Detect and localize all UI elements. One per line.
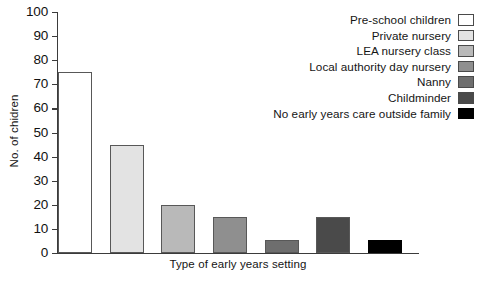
x-axis-title: Type of early years setting xyxy=(57,258,419,270)
legend-item-swatch xyxy=(458,61,474,73)
bar-chart: No. of chidren 1009080706050403020100 Ty… xyxy=(0,0,481,286)
y-axis-tick-label: 80 xyxy=(14,53,48,67)
y-axis-tick-label: 30 xyxy=(14,174,48,188)
y-axis-tick-label: 100 xyxy=(14,5,48,19)
legend-item-label: No early years care outside family xyxy=(273,108,451,120)
legend-item-swatch xyxy=(458,45,474,57)
legend-item-label: Childminder xyxy=(388,92,451,104)
y-axis-tick-label: 40 xyxy=(14,150,48,164)
bar xyxy=(368,240,402,253)
legend-item-swatch xyxy=(458,76,474,88)
legend-item-label: Pre-school children xyxy=(350,14,451,26)
legend-item: Nanny xyxy=(417,74,474,90)
legend-item-swatch xyxy=(458,92,474,104)
legend-item-label: Private nursery xyxy=(372,30,451,42)
y-axis-tick-label: 20 xyxy=(14,198,48,212)
legend-item: Local authority day nursery xyxy=(309,59,474,75)
y-axis-tick-label: 10 xyxy=(14,222,48,236)
legend-item: No early years care outside family xyxy=(273,106,474,122)
bar xyxy=(58,72,92,253)
y-axis-tick-label: 60 xyxy=(14,101,48,115)
bar xyxy=(265,240,299,253)
legend-item-label: LEA nursery class xyxy=(357,45,451,57)
y-axis-tick-label: 90 xyxy=(14,29,48,43)
legend-item: Childminder xyxy=(388,90,474,106)
y-axis-tick-label: 70 xyxy=(14,77,48,91)
legend-item-swatch xyxy=(458,30,474,42)
legend-item-label: Local authority day nursery xyxy=(309,61,451,73)
legend-item: Private nursery xyxy=(372,28,474,44)
bar xyxy=(161,205,195,253)
bar xyxy=(213,217,247,253)
legend-item-swatch xyxy=(458,108,474,120)
y-axis-tick-label: 50 xyxy=(14,126,48,140)
bar xyxy=(110,145,144,253)
bar xyxy=(316,217,350,253)
y-axis-tick-label: 0 xyxy=(14,246,48,260)
legend: Pre-school childrenPrivate nurseryLEA nu… xyxy=(273,12,474,121)
legend-item: Pre-school children xyxy=(350,12,474,28)
legend-item-label: Nanny xyxy=(417,76,451,88)
legend-item: LEA nursery class xyxy=(357,43,474,59)
legend-item-swatch xyxy=(458,14,474,26)
